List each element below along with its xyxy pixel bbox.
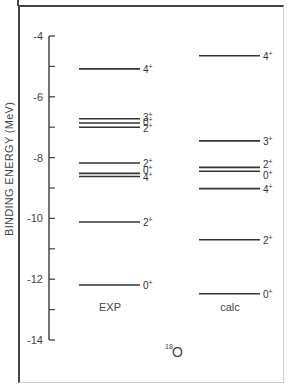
spin-parity-label: 4+: [143, 171, 153, 183]
spin-parity-label: 2+: [143, 122, 153, 134]
spin-parity-label: 4+: [143, 63, 153, 75]
y-tick-label: -6: [33, 91, 43, 103]
y-tick-label: -4: [33, 30, 43, 42]
series-label-calc: calc: [220, 301, 240, 313]
spin-parity-label: 2+: [263, 234, 273, 246]
series-label-exp: EXP: [99, 301, 121, 313]
spin-parity-label: 0+: [143, 279, 153, 291]
spin-parity-label: 2+: [143, 216, 153, 228]
spin-parity-label: 3+: [263, 135, 273, 147]
y-tick-label: -14: [27, 334, 43, 346]
y-tick-label: -12: [27, 273, 43, 285]
nucleus-symbol: O: [172, 344, 183, 360]
y-tick-label: -8: [33, 152, 43, 164]
spin-parity-label: 4+: [263, 50, 273, 62]
spin-parity-label: 0+: [263, 288, 273, 300]
spin-parity-label: 4+: [263, 183, 273, 195]
spin-parity-label: 0+: [263, 169, 273, 181]
y-tick-label: -10: [27, 212, 43, 224]
level-diagram: -4-6-8-10-12-144+3+0+2+2+0+4+2+0+EXP4+3+…: [0, 0, 288, 385]
